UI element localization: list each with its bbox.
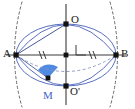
geometry-figure: A B O O' M — [0, 0, 135, 109]
right-angle-marker — [76, 45, 86, 55]
label-b: B — [121, 48, 128, 59]
point-m — [46, 76, 51, 81]
point-center — [64, 53, 69, 58]
point-b — [113, 52, 118, 57]
geometry-canvas — [0, 0, 135, 109]
label-a: A — [3, 48, 11, 59]
point-o — [63, 21, 68, 26]
label-m: M — [43, 90, 53, 101]
point-o-prime — [63, 83, 68, 88]
label-o: O — [71, 14, 79, 25]
label-o-prime: O' — [70, 86, 80, 97]
segment-a-o — [16, 24, 66, 55]
point-a — [13, 52, 18, 57]
